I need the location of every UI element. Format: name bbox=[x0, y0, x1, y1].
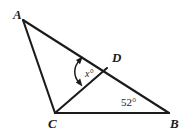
segment-AB bbox=[23, 20, 169, 113]
vertex-label-B: B bbox=[169, 116, 179, 131]
vertex-label-C: C bbox=[48, 116, 57, 131]
angle-at-D-marker bbox=[75, 57, 83, 87]
geometry-figure: x° 52° A B C D bbox=[0, 0, 182, 133]
figure-segments bbox=[23, 20, 169, 113]
angle-label-x: x° bbox=[84, 68, 93, 79]
segment-AC bbox=[23, 20, 55, 113]
angle-arc-double-headed bbox=[75, 61, 80, 83]
figure-canvas: x° 52° A B C D bbox=[0, 0, 182, 133]
segment-CD bbox=[55, 68, 107, 113]
angle-label-52: 52° bbox=[121, 96, 136, 108]
vertex-label-D: D bbox=[111, 50, 122, 65]
vertex-label-A: A bbox=[12, 7, 22, 22]
